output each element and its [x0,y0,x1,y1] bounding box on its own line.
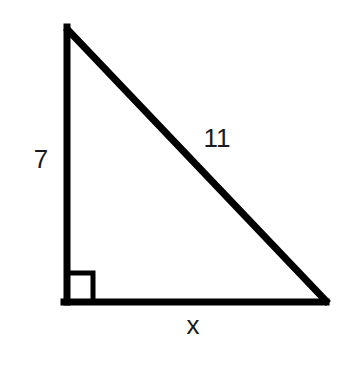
hypotenuse-line [68,30,326,301]
bottom-leg-label: x [187,310,200,340]
right-triangle-diagram: 7 11 x [0,0,347,365]
triangle [64,27,326,302]
right-angle-marker [67,273,93,302]
hypotenuse-label: 11 [204,123,231,153]
left-leg-label: 7 [34,144,48,174]
